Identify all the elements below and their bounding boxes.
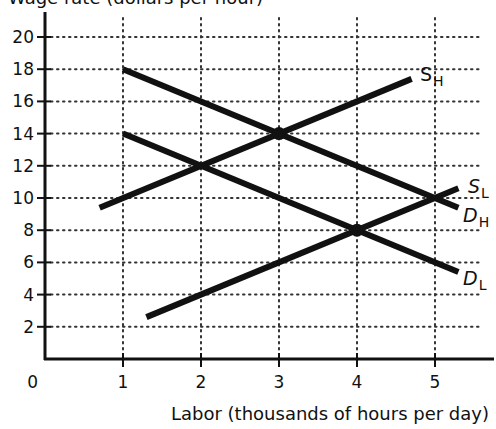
y-tick-label: 20 [12,27,34,47]
x-tick-label: 5 [430,372,441,392]
y-tick-label: 2 [23,317,34,337]
y-tick-label: 12 [12,156,34,176]
labor-market-chart: Wage rate (dollars per hour) 24681012141… [0,0,496,429]
x-tick-label: 2 [196,372,207,392]
grid [51,18,480,355]
tick-labels: 246810121416182012345 [12,27,440,392]
y-tick-label: 4 [23,285,34,305]
curve-d-h [123,69,458,207]
label-d-l: DL [463,267,487,293]
label-d-h: DH [463,204,489,230]
y-tick-label: 14 [12,124,34,144]
curve-d-l [123,134,458,272]
y-tick-label: 6 [23,252,34,272]
x-tick-label: 3 [274,372,285,392]
label-s-h: SH [420,63,444,89]
y-tick-label: 8 [23,220,34,240]
origin-label: 0 [27,372,38,392]
x-tick-label: 4 [352,372,363,392]
y-tick-label: 10 [12,188,34,208]
y-tick-label: 18 [12,59,34,79]
x-axis-title: Labor (thousands of hours per day) [171,403,489,424]
equilibrium-points [273,127,364,237]
equilibrium-point [273,127,286,140]
chart-title: Wage rate (dollars per hour) [8,0,263,8]
y-tick-label: 16 [12,91,34,111]
equilibrium-point [351,224,364,237]
x-tick-label: 1 [118,372,129,392]
